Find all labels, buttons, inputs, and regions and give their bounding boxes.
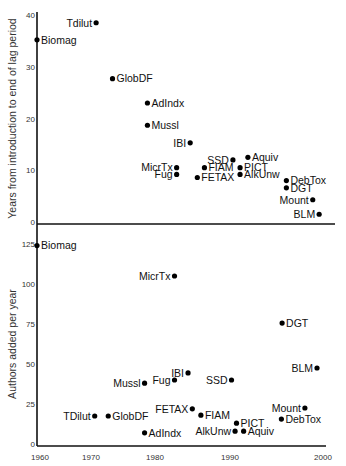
data-point: Mount [280, 194, 316, 206]
point-marker [34, 243, 39, 248]
point-marker [145, 100, 150, 105]
point-label: Mount [280, 194, 309, 206]
point-marker [237, 172, 242, 177]
x-tick-label: 1980 [146, 453, 164, 462]
point-marker [317, 212, 322, 217]
data-point: AlkUnw [237, 168, 280, 180]
point-marker [279, 416, 284, 421]
point-marker [284, 178, 289, 183]
point-marker [229, 377, 234, 382]
chart-figure: 010203040Years from introduction to end … [0, 0, 346, 466]
point-label: Tdilut [66, 17, 92, 29]
point-label: MicrTx [139, 270, 171, 282]
point-marker [284, 185, 289, 190]
y-tick-label: 50 [26, 360, 35, 369]
point-label: Biomag [41, 239, 77, 251]
point-label: AdIndx [149, 427, 182, 439]
data-point: IBI [171, 367, 190, 379]
y-tick-label: 0 [31, 218, 36, 227]
data-point: Tdilut [66, 17, 98, 29]
point-label: FETAX [155, 403, 188, 415]
point-label: Mussl [113, 377, 140, 389]
point-marker [232, 429, 237, 434]
data-point: MicrTx [139, 270, 177, 282]
point-label: AdIndx [151, 97, 184, 109]
data-point: AdIndx [142, 427, 182, 439]
point-label: Mussl [151, 119, 178, 131]
x-tick-label: 1970 [82, 453, 100, 462]
point-label: IBI [171, 367, 184, 379]
upper-panel: 010203040Years from introduction to end … [6, 11, 335, 227]
data-point: FETAX [155, 403, 195, 415]
data-point: BLM [291, 362, 319, 374]
point-marker [110, 76, 115, 81]
point-marker [202, 165, 207, 170]
point-label: TDilut [63, 410, 91, 422]
y-tick-label: 75 [26, 320, 35, 329]
point-label: Biomag [41, 34, 77, 46]
point-marker [92, 413, 97, 418]
point-marker [314, 365, 319, 370]
data-point: DGT [280, 317, 309, 329]
point-marker [172, 377, 177, 382]
data-point: TDilut [63, 410, 97, 422]
y-tick-label: 100 [22, 280, 36, 289]
point-label: BLM [294, 208, 316, 220]
point-marker [195, 175, 200, 180]
point-marker [142, 381, 147, 386]
point-label: DGT [286, 317, 309, 329]
point-label: Fug [152, 374, 170, 386]
data-point: DebTox [279, 413, 322, 425]
y-axis-title: Years from introduction to end of lag pe… [6, 18, 18, 219]
point-marker [142, 430, 147, 435]
data-point: AdIndx [145, 97, 185, 109]
point-marker [230, 157, 235, 162]
data-point: Biomag [34, 239, 76, 251]
point-marker [241, 429, 246, 434]
data-point: GlobDF [110, 72, 153, 84]
point-label: FETAX [201, 171, 234, 183]
point-marker [190, 406, 195, 411]
data-point: FETAX [195, 171, 235, 183]
point-label: DGT [290, 182, 313, 194]
point-label: FIAM [205, 409, 230, 421]
point-marker [106, 413, 111, 418]
y-tick-label: 40 [26, 11, 35, 20]
y-tick-label: 10 [26, 166, 35, 175]
point-marker [145, 123, 150, 128]
point-label: Aquiv [248, 425, 275, 437]
point-marker [302, 405, 307, 410]
point-marker [198, 413, 203, 418]
y-tick-label: 20 [26, 115, 35, 124]
point-label: DebTox [285, 413, 321, 425]
point-label: BLM [291, 362, 313, 374]
y-tick-label: 125 [22, 240, 36, 249]
data-point: IBI [173, 137, 192, 149]
point-marker [280, 320, 285, 325]
point-marker [234, 421, 239, 426]
data-point: SSD [206, 374, 234, 386]
data-point: Mussl [113, 377, 147, 389]
point-label: AlkUnw [244, 168, 280, 180]
point-label: AlkUnw [195, 425, 231, 437]
y-tick-label: 30 [26, 63, 35, 72]
y-tick-label: 0 [31, 440, 36, 449]
x-tick-label: 2000 [314, 453, 332, 462]
data-point: FIAM [198, 409, 230, 421]
y-axis-title: Authors added per year [6, 289, 18, 399]
point-label: SSD [207, 154, 229, 166]
x-axis-ticks: 19601970198019902000 [31, 453, 332, 462]
point-label: IBI [173, 137, 186, 149]
point-marker [245, 155, 250, 160]
data-point: Biomag [34, 34, 76, 46]
point-label: Fug [155, 168, 173, 180]
lower-panel: 0255075100125Authors added per yearBioma… [6, 224, 326, 449]
x-tick-label: 1960 [31, 453, 49, 462]
point-marker [237, 165, 242, 170]
x-tick-label: 1990 [221, 453, 239, 462]
point-label: GlobDF [112, 410, 148, 422]
point-marker [185, 370, 190, 375]
data-point: AlkUnw [195, 425, 237, 437]
point-label: SSD [206, 374, 228, 386]
point-marker [174, 165, 179, 170]
